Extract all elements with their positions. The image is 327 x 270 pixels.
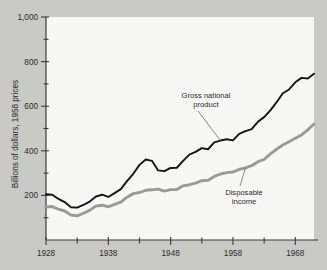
x-axis-tick-label: 1968 [286, 249, 305, 258]
x-axis-tick-label: 1948 [162, 249, 181, 258]
y-axis-tick-label: 1,000 [18, 13, 39, 22]
x-axis-tick-label: 1958 [224, 249, 243, 258]
y-axis-tick-label: 200 [24, 191, 38, 200]
chart-figure: 2004006008001,000 19281938194819581968 B… [0, 0, 327, 270]
gnp-disposable-income-line-chart: 2004006008001,000 19281938194819581968 B… [0, 0, 327, 270]
y-axis-tick-label: 600 [24, 102, 38, 111]
annotation-label-gnp-line1: Gross national [182, 91, 231, 100]
x-axis-tick-labels: 19281938194819581968 [37, 249, 305, 258]
x-axis-tick-label: 1928 [37, 249, 56, 258]
y-axis-title: Billions of dollars, 1958 prices [11, 80, 20, 188]
annotation-label-disposable-line1: Disposable [225, 188, 263, 197]
x-axis-tick-label: 1938 [99, 249, 118, 258]
annotation-label-disposable-line2: income [232, 197, 256, 206]
y-axis-tick-labels: 2004006008001,000 [18, 13, 39, 200]
plot-area-background [46, 17, 314, 240]
y-axis-tick-label: 400 [24, 147, 38, 156]
annotation-label-gnp-line2: product [193, 100, 219, 109]
y-axis-tick-label: 800 [24, 58, 38, 67]
